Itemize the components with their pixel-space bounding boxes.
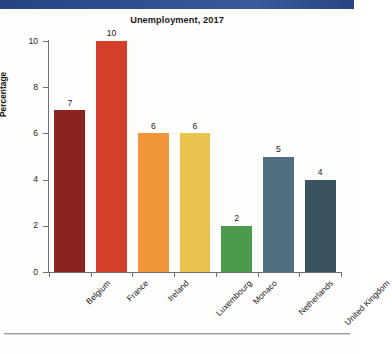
x-tick-label: Luxembourg [214, 278, 254, 318]
x-tick-label: Monaco [250, 278, 278, 306]
x-tick-label: Belgium [84, 278, 112, 306]
x-tick-label: Netherlands [297, 278, 336, 317]
x-tick-label: Ireland [166, 278, 191, 303]
bottom-divider-shadow [4, 334, 350, 335]
x-tick-label: France [124, 278, 150, 304]
x-tick-label: United Kingdom [343, 278, 392, 327]
